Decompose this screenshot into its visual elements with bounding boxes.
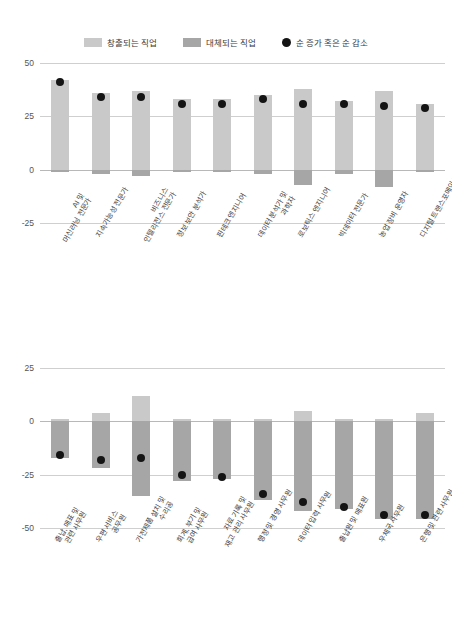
net-change-dot	[178, 100, 186, 108]
legend-label-displaced: 대체되는 직업	[206, 36, 256, 48]
bar-group	[132, 368, 150, 528]
bar-created	[132, 396, 150, 422]
net-change-dot	[259, 95, 267, 103]
bar-group	[92, 63, 110, 223]
bar-created	[173, 99, 191, 169]
bar-created	[335, 101, 353, 169]
square-swatch-icon	[84, 38, 102, 47]
chart-legend: 창출되는 직업 대체되는 직업 순 증가 혹은 순 감소	[0, 36, 452, 48]
net-change-dot	[137, 454, 145, 462]
x-axis-labels-top: AI 및머신러닝 전문가지속가능성 전문가비즈니스인텔리전스 전문가정보 보안 …	[40, 233, 445, 318]
bar-displaced	[254, 170, 272, 174]
square-swatch-icon	[183, 38, 201, 47]
bar-created	[92, 413, 110, 422]
y-axis-tick-label: 25	[8, 111, 34, 121]
y-axis-tick-label: -25	[8, 470, 34, 480]
legend-label-created: 창출되는 직업	[107, 36, 157, 48]
circle-marker-icon	[282, 38, 291, 47]
bar-created	[416, 104, 434, 170]
bar-displaced	[132, 170, 150, 176]
bar-group	[254, 63, 272, 223]
chart-page: 창출되는 직업 대체되는 직업 순 증가 혹은 순 감소 50250-25 AI…	[0, 0, 452, 637]
bar-group	[416, 368, 434, 528]
bar-displaced	[254, 421, 272, 500]
y-axis-tick-label: 50	[8, 58, 34, 68]
bar-created	[294, 411, 312, 422]
bar-group	[132, 63, 150, 223]
net-change-dot	[340, 503, 348, 511]
bar-displaced	[416, 421, 434, 519]
bar-group	[416, 63, 434, 223]
net-change-dot	[218, 100, 226, 108]
legend-item-created: 창출되는 직업	[84, 36, 157, 48]
legend-item-displaced: 대체되는 직업	[183, 36, 256, 48]
bar-displaced	[335, 170, 353, 174]
net-change-dot	[97, 93, 105, 101]
bar-group	[375, 368, 393, 528]
bar-displaced	[375, 421, 393, 519]
bar-created	[92, 93, 110, 170]
net-change-dot	[259, 490, 267, 498]
x-axis-labels-bottom: 출납, 매표 및관련 사무원우편 서비스공무원가전제품 설치 및수리공회계, 부…	[40, 538, 445, 628]
bar-displaced	[416, 170, 434, 172]
bar-group	[213, 368, 231, 528]
y-axis-tick-label: 0	[8, 416, 34, 426]
bar-displaced	[51, 170, 69, 172]
y-axis-tick-label: -50	[8, 523, 34, 533]
bar-created	[416, 413, 434, 422]
bar-displaced	[213, 421, 231, 479]
y-axis-tick-label: 0	[8, 165, 34, 175]
legend-item-net: 순 증가 혹은 순 감소	[282, 36, 368, 48]
bar-displaced	[294, 170, 312, 185]
net-change-dot	[421, 511, 429, 519]
bar-group	[213, 63, 231, 223]
bar-displaced	[173, 170, 191, 172]
bar-created	[213, 99, 231, 169]
bar-created	[254, 95, 272, 170]
bar-group	[335, 63, 353, 223]
bar-group	[375, 63, 393, 223]
bar-displaced	[92, 170, 110, 174]
bar-group	[51, 63, 69, 223]
net-change-dot	[340, 100, 348, 108]
chart-top-fastest-growing-jobs: 50250-25 AI 및머신러닝 전문가지속가능성 전문가비즈니스인텔리전스 …	[0, 55, 452, 315]
bar-created	[51, 80, 69, 170]
net-change-dot	[421, 104, 429, 112]
legend-label-net: 순 증가 혹은 순 감소	[296, 36, 368, 48]
bar-displaced	[375, 170, 393, 187]
bar-displaced	[335, 421, 353, 508]
net-change-dot	[97, 456, 105, 464]
net-change-dot	[299, 100, 307, 108]
bar-created	[132, 91, 150, 170]
bar-group	[92, 368, 110, 528]
bar-displaced	[213, 170, 231, 172]
bar-group	[51, 368, 69, 528]
y-axis-tick-label: -25	[8, 218, 34, 228]
y-axis-tick-label: 25	[8, 363, 34, 373]
net-change-dot	[380, 102, 388, 110]
net-change-dot	[178, 471, 186, 479]
chart-bottom-fastest-declining-jobs: 250-25-50 출납, 매표 및관련 사무원우편 서비스공무원가전제품 설치…	[0, 360, 452, 635]
